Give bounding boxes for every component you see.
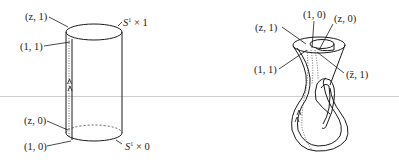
label-1-0: (1, 0)	[303, 9, 326, 21]
label-z-1: (z, 1)	[25, 11, 48, 23]
label-z-0: (z, 0)	[334, 13, 357, 25]
top-circle	[66, 24, 122, 40]
leader-10	[312, 21, 314, 48]
handle-tube-outer	[317, 79, 335, 129]
klein-bottle-diagram: (z, 1) (1, 1) (1, 0) (z, 0) (z̄, 1)	[254, 9, 369, 151]
leader-z0	[47, 121, 68, 130]
up-arrow-icon	[68, 79, 72, 84]
cylinder-diagram: (z, 1) (1, 1) S1 × 1 (z, 0) (1, 0) S1 × …	[20, 11, 150, 153]
label-1-1: (1, 1)	[20, 41, 43, 53]
leader-s1x0	[116, 140, 122, 144]
diagram-canvas: (z, 1) (1, 1) S1 × 1 (z, 0) (1, 0) S1 × …	[0, 0, 399, 163]
leader-z1	[49, 17, 68, 27]
label-s1-times-0: S1 × 0	[125, 141, 150, 152]
label-z-0: (z, 0)	[24, 115, 47, 127]
leader-z1	[282, 27, 306, 44]
leader-11	[279, 50, 307, 69]
leader-s1x1	[118, 22, 122, 26]
bottom-circle-front	[66, 133, 122, 141]
label-1-1: (1, 1)	[254, 64, 277, 76]
leader-zbar1	[317, 52, 344, 73]
leader-10	[47, 141, 71, 146]
up-arrow-icon	[68, 86, 72, 91]
figure: (z, 1) (1, 1) S1 × 1 (z, 0) (1, 0) S1 × …	[0, 0, 399, 163]
handle-tube-inner	[321, 84, 330, 124]
bottom-circle-back	[66, 125, 122, 133]
label-z-1: (z, 1)	[255, 22, 278, 34]
seam-dotted-2	[311, 50, 313, 84]
seam-dotted-3	[315, 50, 318, 80]
label-s1-times-1: S1 × 1	[123, 17, 148, 28]
label-zbar-1: (z̄, 1)	[346, 69, 369, 81]
label-1-0: (1, 0)	[24, 141, 47, 153]
